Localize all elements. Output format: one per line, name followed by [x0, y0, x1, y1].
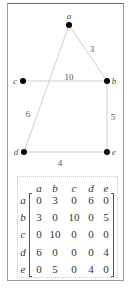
matrix-cell: 0 [88, 229, 94, 240]
node-a [66, 22, 72, 28]
matrix-cell: 0 [36, 264, 42, 275]
matrix-cell: 6 [36, 247, 42, 258]
matrix-column-header: e [104, 183, 109, 194]
matrix-column-header: b [52, 183, 58, 194]
matrix-cell: 5 [52, 264, 58, 275]
matrix-cell: 3 [52, 195, 58, 206]
matrix-right-bracket [111, 193, 114, 277]
graph-diagram: 310654abcde [0, 0, 132, 175]
node-d [21, 149, 27, 155]
node-label: c [13, 76, 17, 86]
edge-weight-label: 3 [90, 44, 95, 54]
matrix-cell: 0 [103, 195, 109, 206]
matrix-cell: 0 [36, 195, 42, 206]
matrix-column-header: d [88, 183, 94, 194]
matrix-cell: 0 [52, 247, 58, 258]
matrix-row-header: d [20, 247, 26, 258]
matrix-row-header: b [20, 212, 26, 223]
node-c [20, 78, 26, 84]
matrix-cell: 4 [103, 247, 109, 258]
edge-weight-label: 5 [111, 112, 116, 122]
edge-weight-label: 6 [26, 109, 31, 119]
matrix-cell: 3 [36, 212, 42, 223]
matrix-cell: 6 [88, 195, 94, 206]
edge-weight-label: 4 [58, 158, 63, 168]
matrix-cell: 0 [71, 229, 77, 240]
matrix-cell: 0 [52, 212, 58, 223]
edge-a-b [69, 25, 107, 81]
matrix-column-header: a [36, 183, 42, 194]
node-label: b [112, 76, 117, 86]
node-b [104, 78, 110, 84]
matrix-cell: 0 [71, 264, 77, 275]
matrix-left-bracket [29, 193, 32, 277]
node-label: d [14, 147, 19, 157]
matrix-cell: 0 [88, 247, 94, 258]
matrix-cell: 0 [103, 264, 109, 275]
matrix-cell: 0 [71, 247, 77, 258]
matrix-cell: 5 [103, 212, 109, 223]
matrix-cell: 0 [88, 212, 94, 223]
matrix-row-header: a [20, 195, 26, 206]
node-label: e [112, 147, 116, 157]
matrix-row-header: c [21, 229, 26, 240]
matrix-cell: 4 [88, 264, 94, 275]
matrix-cell: 0 [103, 229, 109, 240]
matrix-cell: 0 [71, 195, 77, 206]
edge-a-d [24, 25, 69, 152]
node-label: a [67, 11, 72, 21]
matrix-cell: 0 [36, 229, 42, 240]
matrix-column-header: c [72, 183, 77, 194]
edge-weight-label: 10 [65, 72, 75, 82]
matrix-cell: 10 [50, 229, 61, 240]
node-e [104, 149, 110, 155]
matrix-cell: 10 [69, 212, 80, 223]
matrix-row-header: e [21, 264, 26, 275]
